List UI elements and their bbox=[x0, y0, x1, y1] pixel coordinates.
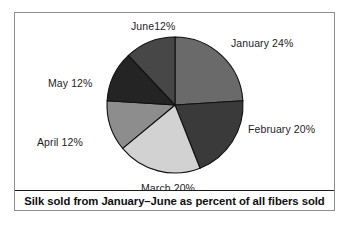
figure-caption: Silk sold from January–June as percent o… bbox=[24, 195, 324, 207]
pie-label-may: May 12% bbox=[48, 78, 92, 89]
pie-label-april: April 12% bbox=[37, 137, 83, 148]
pie-label-february: February 20% bbox=[248, 124, 315, 135]
pie-label-january: January 24% bbox=[231, 38, 293, 49]
pie-label-june: June12% bbox=[131, 21, 175, 32]
figure-caption-bar: Silk sold from January–June as percent o… bbox=[15, 190, 334, 210]
pie-chart-figure: January 24% February 20% March 20% April… bbox=[0, 0, 349, 227]
